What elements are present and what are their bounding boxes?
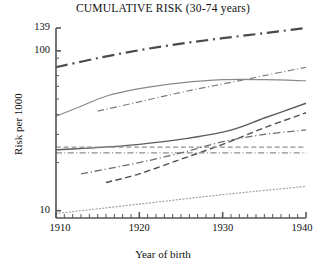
x-tick-label: 1920 bbox=[119, 222, 159, 233]
y-tick-label: 10 bbox=[16, 205, 50, 215]
data-series-line bbox=[56, 79, 306, 116]
data-series-line bbox=[81, 130, 306, 174]
x-tick-label: 1940 bbox=[282, 222, 322, 233]
x-tick-label: 1930 bbox=[203, 222, 243, 233]
data-series-line bbox=[56, 186, 306, 213]
axis-layer bbox=[56, 28, 306, 218]
series-layer bbox=[56, 28, 306, 214]
y-tick-label: 100 bbox=[16, 45, 50, 55]
chart-figure: CUMULATIVE RISK (30-74 years) Risk per 1… bbox=[0, 0, 326, 266]
data-series-line bbox=[98, 67, 306, 111]
y-tick-label: 139 bbox=[16, 22, 50, 32]
x-tick-label: 1910 bbox=[40, 222, 80, 233]
data-series-line bbox=[56, 28, 306, 67]
data-series-line bbox=[106, 113, 306, 183]
